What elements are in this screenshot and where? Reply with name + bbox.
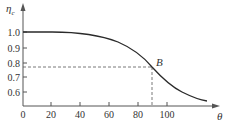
efficiency-chart: 1.0 0.9 0.8 0.7 0.6 0 20 40 60 80 100 ηc… [0, 0, 227, 129]
y-tick-label: 0.8 [8, 58, 21, 69]
x-axis-arrow-icon [212, 104, 220, 109]
y-ticks [23, 32, 27, 92]
point-b-guides [23, 67, 152, 106]
x-tick-label: 40 [75, 109, 85, 120]
y-tick-label: 1.0 [8, 27, 21, 38]
x-axis-label: θ [217, 110, 223, 122]
point-b-label: B [156, 56, 163, 68]
y-axis-arrow-icon [21, 3, 26, 11]
x-tick-label: 20 [46, 109, 56, 120]
x-tick-label: 80 [133, 109, 143, 120]
efficiency-curve [23, 32, 207, 101]
y-tick-labels: 1.0 0.9 0.8 0.7 0.6 [8, 27, 21, 98]
x-tick-label: 60 [104, 109, 114, 120]
y-tick-label: 0.9 [8, 43, 21, 54]
y-tick-label: 0.6 [8, 87, 21, 98]
y-tick-label: 0.7 [8, 72, 21, 83]
y-axis [21, 3, 26, 106]
x-ticks [51, 102, 167, 106]
y-axis-label: ηc [6, 2, 15, 17]
x-tick-label: 100 [160, 109, 175, 120]
x-tick-labels: 0 20 40 60 80 100 [21, 109, 175, 120]
x-tick-label: 0 [21, 109, 26, 120]
x-axis [23, 104, 220, 109]
